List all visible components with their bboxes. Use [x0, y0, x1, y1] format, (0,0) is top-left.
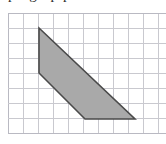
figure-root: p g pp [0, 0, 166, 144]
quadrilateral-polygon [39, 28, 135, 119]
shaded-quadrilateral [0, 0, 166, 144]
